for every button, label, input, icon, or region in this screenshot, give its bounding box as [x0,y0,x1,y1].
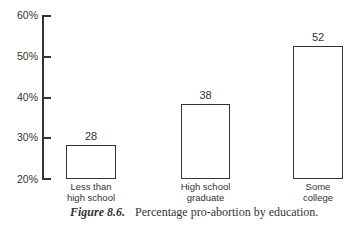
y-tick-label-20: 20% [2,173,38,185]
y-tick-60 [42,15,51,17]
bar-value-less-than-high-school: 28 [66,130,116,142]
y-tick-label-60: 60% [2,9,38,21]
figure-caption: Figure 8.6.Percentage pro-abortion by ed… [70,205,318,220]
y-tick-30 [42,137,51,139]
bar-less-than-high-school [66,145,116,179]
y-tick-40 [42,97,51,99]
y-tick-20 [42,178,51,180]
figure-caption-text: Percentage pro-abortion by education. [135,205,318,219]
category-label-less-than-high-school: Less than high school [56,181,126,203]
y-tick-50 [42,56,51,58]
category-label-some-college: Some college [283,181,353,203]
category-label-high-school-graduate: High school graduate [168,181,243,203]
y-tick-label-50: 50% [2,50,38,62]
figure-number: Figure 8.6. [70,205,125,219]
bar-high-school-graduate [181,104,230,179]
y-tick-label-30: 30% [2,131,38,143]
y-tick-label-40: 40% [2,91,38,103]
bar-value-some-college: 52 [293,31,343,43]
bar-value-high-school-graduate: 38 [181,89,230,101]
bar-some-college [293,46,343,179]
